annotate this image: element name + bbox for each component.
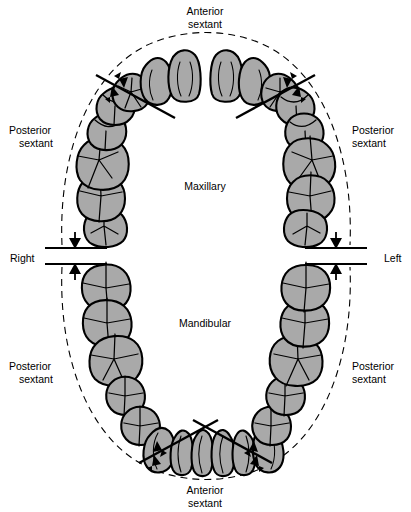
label-anterior-sextant-bottom-line1: Anterior xyxy=(187,484,224,496)
mandibular-arch-teeth xyxy=(82,262,330,476)
tooth-maxillary-right-lateral-incisor xyxy=(141,58,173,105)
label-anterior-sextant-top-line1: Anterior xyxy=(187,5,224,17)
tooth-maxillary-left-central-incisor xyxy=(210,50,242,101)
dental-sextant-diagram: Anterior sextant Posterior sextant Poste… xyxy=(0,0,411,512)
tooth-mandibular-left-third-molar xyxy=(281,262,330,312)
label-posterior-sextant-upper-right-line1: Posterior xyxy=(9,124,52,136)
tooth-maxillary-left-third-molar xyxy=(284,210,327,247)
label-posterior-sextant-upper-left-line1: Posterior xyxy=(352,124,395,136)
label-posterior-sextant-lower-right-line2: sextant xyxy=(19,373,53,385)
label-posterior-sextant-upper-left-line2: sextant xyxy=(352,137,386,149)
tooth-mandibular-right-central-incisor xyxy=(192,430,214,476)
label-anterior-sextant-top-line2: sextant xyxy=(188,18,222,30)
tooth-maxillary-right-central-incisor xyxy=(168,50,200,101)
label-maxillary: Maxillary xyxy=(184,180,226,192)
label-posterior-sextant-lower-right-line1: Posterior xyxy=(9,360,52,372)
label-mandibular: Mandibular xyxy=(179,317,231,329)
label-left: Left xyxy=(384,252,402,264)
dental-arch-figure: Anterior sextant Posterior sextant Poste… xyxy=(0,0,411,512)
maxillary-arch-teeth xyxy=(77,50,336,247)
label-posterior-sextant-lower-left-line1: Posterior xyxy=(352,360,395,372)
label-posterior-sextant-upper-right-line2: sextant xyxy=(19,137,53,149)
tooth-mandibular-right-lateral-incisor xyxy=(171,430,194,475)
label-right: Right xyxy=(10,252,35,264)
label-anterior-sextant-bottom-line2: sextant xyxy=(188,497,222,509)
label-posterior-sextant-lower-left-line2: sextant xyxy=(352,373,386,385)
